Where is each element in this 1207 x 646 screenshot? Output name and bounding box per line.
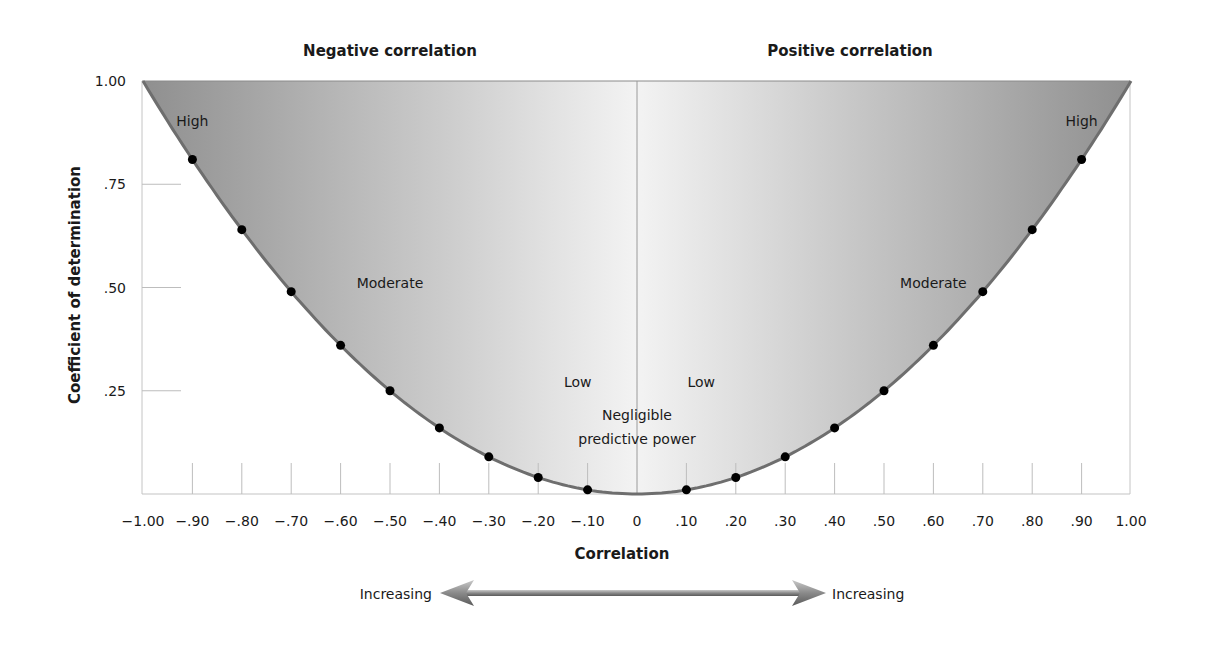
x-tick-label: .90 — [1070, 513, 1092, 529]
x-tick-label: .20 — [725, 513, 747, 529]
data-point — [682, 485, 691, 494]
x-tick-label: −.10 — [571, 513, 605, 529]
x-tick-label: .60 — [922, 513, 944, 529]
x-tick-label: −.30 — [472, 513, 506, 529]
data-point — [880, 386, 889, 395]
x-axis-title: Correlation — [575, 545, 670, 563]
y-tick-label: .75 — [104, 176, 126, 192]
y-tick-label: .50 — [104, 280, 126, 296]
data-point — [1077, 155, 1086, 164]
annotation-label: Low — [564, 374, 592, 390]
annotation-label: High — [176, 113, 208, 129]
x-tick-label: −.20 — [521, 513, 555, 529]
x-tick-label: −.60 — [324, 513, 358, 529]
data-point — [386, 386, 395, 395]
y-axis-title: Coefficient of determination — [66, 166, 84, 404]
data-point — [731, 473, 740, 482]
data-point — [336, 341, 345, 350]
positive-correlation-title: Positive correlation — [767, 42, 933, 60]
annotation-label: Low — [687, 374, 715, 390]
data-point — [534, 473, 543, 482]
y-tick-label: .25 — [104, 383, 126, 399]
y-tick-label: 1.00 — [95, 73, 126, 89]
x-tick-label: −1.00 — [122, 513, 165, 529]
data-point — [188, 155, 197, 164]
increasing-right-label: Increasing — [832, 586, 904, 602]
x-tick-label: .30 — [774, 513, 796, 529]
negative-correlation-title: Negative correlation — [303, 42, 477, 60]
data-point — [287, 287, 296, 296]
data-point — [1028, 225, 1037, 234]
annotation-label: Moderate — [900, 275, 967, 291]
data-point — [237, 225, 246, 234]
x-tick-label: −.40 — [422, 513, 456, 529]
annotation-label: High — [1066, 113, 1098, 129]
x-tick-label: −.80 — [225, 513, 259, 529]
x-tick-label: −.70 — [274, 513, 308, 529]
x-tick-label: .40 — [823, 513, 845, 529]
data-point — [830, 423, 839, 432]
x-tick-label: 1.00 — [1115, 513, 1146, 529]
x-tick-label: .10 — [675, 513, 697, 529]
y-tick-labels: 1.00.75.50.25 — [95, 73, 126, 399]
annotation-label: Moderate — [357, 275, 424, 291]
annotation-label: predictive power — [578, 431, 696, 447]
correlation-chart: Negative correlation Positive correlatio… — [0, 0, 1207, 646]
x-tick-labels: −1.00−.90−.80−.70−.60−.50−.40−.30−.20−.1… — [122, 513, 1147, 529]
x-tick-label: .80 — [1021, 513, 1043, 529]
data-point — [978, 287, 987, 296]
data-point — [781, 452, 790, 461]
annotation-label: Negligible — [602, 407, 672, 423]
y-tick-marks — [142, 184, 181, 391]
data-point — [929, 341, 938, 350]
x-tick-label: −.90 — [175, 513, 209, 529]
data-point — [435, 423, 444, 432]
x-tick-label: .50 — [873, 513, 895, 529]
x-tick-label: −.50 — [373, 513, 407, 529]
data-point — [583, 485, 592, 494]
data-point — [484, 452, 493, 461]
x-tick-label: .70 — [972, 513, 994, 529]
increasing-left-label: Increasing — [360, 586, 432, 602]
increasing-arrow — [440, 580, 826, 606]
x-tick-label: 0 — [633, 513, 642, 529]
